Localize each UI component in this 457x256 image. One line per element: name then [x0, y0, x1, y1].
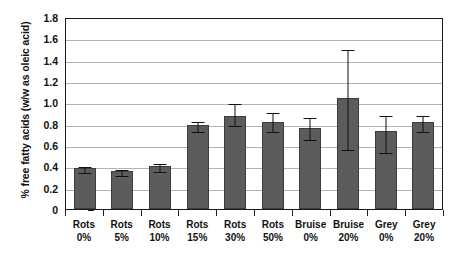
error-bar-cap-lower [417, 132, 430, 133]
error-bar-cap-lower [341, 150, 354, 151]
x-tick-mark [103, 210, 104, 216]
x-tick-label-line1: Rots [178, 219, 216, 232]
x-tick-label: Grey20% [405, 219, 443, 244]
x-tick-label: Grey0% [367, 219, 405, 244]
x-tick-mark [216, 210, 217, 216]
x-tick-mark [367, 210, 368, 216]
error-bar-cap-lower [153, 172, 166, 173]
error-bar [272, 113, 273, 131]
error-bar-cap-lower [266, 132, 279, 133]
x-tick-label-line2: 0% [65, 232, 103, 245]
x-tick-label-line1: Rots [103, 219, 141, 232]
x-tick-label-line2: 0% [292, 232, 330, 245]
error-bar-cap-upper [191, 122, 204, 123]
bar [262, 122, 284, 209]
x-tick-label-line2: 10% [141, 232, 179, 245]
x-axis-tick-labels: Rots0%Rots5%Rots10%Rots15%Rots30%Rots50%… [65, 219, 443, 244]
x-tick-label-line1: Rots [254, 219, 292, 232]
x-tick-label-line2: 20% [405, 232, 443, 245]
bar-group [141, 19, 179, 209]
bar [224, 116, 246, 209]
x-tick-label-line1: Bruise [330, 219, 368, 232]
x-tick-mark [178, 210, 179, 216]
x-tick-mark [254, 210, 255, 216]
x-tick-mark [292, 210, 293, 216]
x-tick-label: Rots50% [254, 219, 292, 244]
y-tick-label: 0.6 [43, 141, 58, 152]
error-bar-cap-lower [229, 126, 242, 127]
error-bar-cap-upper [78, 167, 91, 168]
y-tick-label: 0.4 [43, 162, 58, 173]
x-tick-label-line2: 20% [330, 232, 368, 245]
bar [412, 122, 434, 209]
error-bar-cap-upper [266, 113, 279, 114]
x-tick-mark [141, 210, 142, 216]
bar-group [104, 19, 142, 209]
error-bar [423, 116, 424, 132]
bar-group [329, 19, 367, 209]
x-tick-label: Rots10% [141, 219, 179, 244]
x-tick-mark [443, 210, 444, 216]
plot-area [65, 18, 443, 210]
y-axis-tick-labels: 1.81.61.41.21.00.80.60.40.20 [28, 0, 58, 256]
error-bar-cap-upper [417, 116, 430, 117]
x-tick-mark [65, 210, 66, 216]
x-axis-tick-marks [65, 210, 443, 216]
x-tick-label: Rots0% [65, 219, 103, 244]
y-tick-label: 0 [52, 205, 58, 216]
x-tick-label: Rots30% [216, 219, 254, 244]
x-tick-label-line1: Rots [141, 219, 179, 232]
y-tick-label: 1.4 [43, 55, 58, 66]
error-bar-cap-lower [191, 132, 204, 133]
error-bar [197, 122, 198, 132]
x-tick-label-line1: Rots [65, 219, 103, 232]
x-tick-mark [405, 210, 406, 216]
y-tick-label: 1.8 [43, 13, 58, 24]
bar-group [216, 19, 254, 209]
bar [74, 168, 96, 209]
error-bar-cap-upper [304, 118, 317, 119]
x-tick-label: Bruise20% [330, 219, 368, 244]
x-tick-label-line2: 50% [254, 232, 292, 245]
bar-group [292, 19, 330, 209]
error-bar-cap-upper [229, 104, 242, 105]
x-tick-label-line2: 0% [367, 232, 405, 245]
x-tick-label-line1: Grey [405, 219, 443, 232]
x-tick-label-line2: 5% [103, 232, 141, 245]
bars-layer [66, 19, 442, 209]
y-tick-label: 1.6 [43, 34, 58, 45]
bar [187, 125, 209, 209]
y-tick-label: 0.8 [43, 119, 58, 130]
x-tick-mark [330, 210, 331, 216]
error-bar [235, 104, 236, 126]
y-tick-label: 1.0 [43, 98, 58, 109]
error-bar [159, 164, 160, 173]
bar-group [404, 19, 442, 209]
error-bar [310, 118, 311, 140]
x-tick-label-line1: Bruise [292, 219, 330, 232]
bar-group [179, 19, 217, 209]
x-tick-label: Rots15% [178, 219, 216, 244]
error-bar-cap-lower [304, 140, 317, 141]
error-bar [385, 116, 386, 153]
bar-group [66, 19, 104, 209]
free-fatty-acids-bar-chart: % free fatty acids (w/w as oleic acid) 1… [0, 0, 457, 256]
error-bar-cap-upper [379, 116, 392, 117]
error-bar-cap-upper [341, 50, 354, 51]
x-tick-label-line2: 15% [178, 232, 216, 245]
x-tick-label: Bruise0% [292, 219, 330, 244]
y-tick-label: 0.2 [43, 183, 58, 194]
x-tick-label-line2: 30% [216, 232, 254, 245]
error-bar-cap-upper [116, 170, 129, 171]
error-bar-cap-lower [78, 173, 91, 174]
x-tick-label-line1: Rots [216, 219, 254, 232]
bar-group [367, 19, 405, 209]
x-tick-label: Rots5% [103, 219, 141, 244]
bar-group [254, 19, 292, 209]
error-bar-cap-upper [153, 164, 166, 165]
x-tick-label-line1: Grey [367, 219, 405, 232]
error-bar [347, 50, 348, 150]
y-tick-label: 1.2 [43, 77, 58, 88]
error-bar-cap-lower [379, 153, 392, 154]
error-bar-cap-lower [116, 176, 129, 177]
